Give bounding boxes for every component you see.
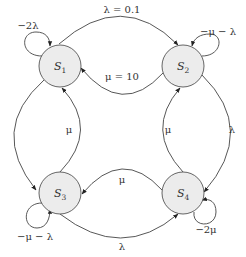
label-s4-s2: μ [165, 124, 172, 135]
label-self-s3: −μ − λ [17, 231, 54, 242]
edge-s3-s4 [60, 214, 178, 238]
edge-s1-s3 [14, 80, 44, 190]
edge-s1-s2 [59, 16, 178, 45]
state-diagram: S1 S2 S3 S4 λ = 0.1 μ = 10 μ μ λ μ λ −2λ… [0, 0, 246, 257]
state-s4: S4 [162, 172, 204, 214]
label-s3-s4: λ [119, 241, 126, 252]
label-s3-s1: μ [66, 124, 73, 135]
state-s1: S1 [39, 45, 81, 87]
label-self-s1: −2λ [17, 20, 39, 31]
edge-s2-s4 [202, 75, 231, 192]
label-s1-s2: λ = 0.1 [104, 4, 141, 15]
label-s4-s3: μ [119, 174, 126, 185]
label-self-s2: −μ − λ [200, 26, 237, 37]
state-s3: S3 [39, 172, 81, 214]
label-self-s4: −2μ [195, 224, 217, 235]
state-s2: S2 [162, 45, 204, 87]
label-s2-s4: λ [229, 124, 236, 135]
label-s2-s1: μ = 10 [105, 71, 139, 82]
